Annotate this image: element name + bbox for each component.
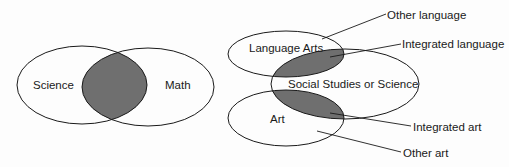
science-label: Science [33,79,74,91]
language-arts-label: Language Arts [249,42,323,54]
venn-diagrams-figure: Science Math Language Arts Social Studie… [0,0,509,167]
social-studies-label: Social Studies or Science [288,78,418,90]
math-label: Math [165,79,191,91]
integrated-art-leader [330,113,411,126]
three-set-venn: Language Arts Social Studies or Science … [228,9,504,159]
integrated-language-callout: Integrated language [402,38,504,50]
other-art-leader [317,131,401,152]
integrated-art-callout: Integrated art [413,121,482,133]
other-language-leader [322,14,386,39]
two-set-venn: Science Math [17,46,214,126]
other-art-callout: Other art [403,147,449,159]
art-label: Art [270,113,286,125]
other-language-callout: Other language [387,9,466,21]
